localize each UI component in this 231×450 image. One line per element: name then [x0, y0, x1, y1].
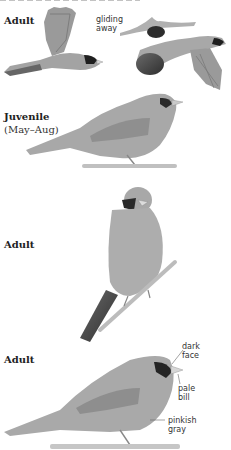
note-line: pinkish — [168, 416, 196, 425]
note-line: pale — [178, 384, 195, 393]
section-label-juvenile: Juvenile — [4, 111, 49, 122]
bird-illustrations — [0, 0, 231, 450]
note-line: face — [182, 351, 200, 360]
section-label-adult-front: Adult — [4, 239, 34, 250]
note-line: gray — [168, 425, 196, 434]
note-line: gliding — [96, 15, 123, 24]
section-label-adult-side: Adult — [4, 354, 34, 365]
note-gliding-away: gliding away — [96, 15, 123, 33]
annotation-dark-face: dark face — [182, 342, 200, 360]
adult-front-bird — [80, 187, 175, 342]
note-line: dark — [182, 342, 200, 351]
annotation-pale-bill: pale bill — [178, 384, 195, 402]
adult-flying-bird-right — [136, 36, 226, 90]
note-line: away — [96, 24, 123, 33]
note-line: bill — [178, 393, 195, 402]
section-label-adult-flight: Adult — [4, 15, 34, 26]
section-sublabel-juvenile: (May–Aug) — [4, 124, 59, 135]
gliding-away-bird — [120, 17, 196, 38]
annotation-pinkish-gray: pinkish gray — [168, 416, 196, 434]
